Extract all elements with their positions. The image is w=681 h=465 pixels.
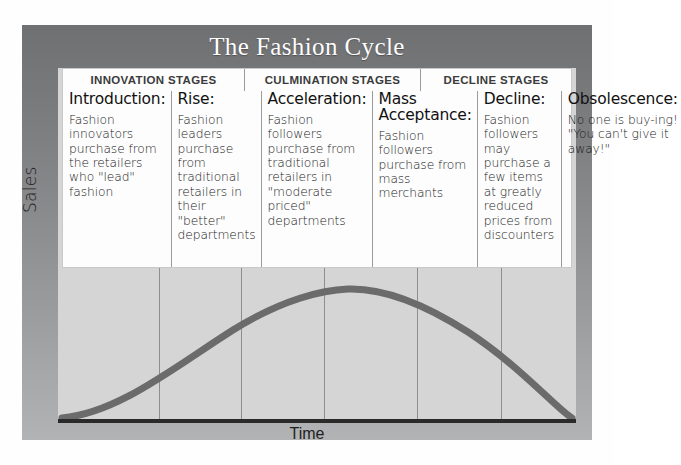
stage-group-innovation: INNOVATION STAGES (63, 69, 245, 91)
stage-group-label: INNOVATION STAGES (90, 74, 216, 86)
stage-column-decline: Decline: Fashion followers may purchase … (478, 91, 562, 267)
x-axis-line (58, 419, 576, 423)
stage-column-introduction: Introduction: Fashion innovators purchas… (63, 91, 172, 267)
stage-description: Fashion followers purchase from traditio… (268, 113, 367, 228)
stage-heading: Rise: (178, 92, 256, 108)
stage-heading: Mass Acceptance: (379, 92, 472, 124)
stage-description: No one is buy-ing! "You can't give it aw… (568, 113, 678, 156)
stage-group-decline: DECLINE STAGES (421, 69, 571, 91)
stage-description: Fashion followers purchase from mass mer… (379, 129, 472, 201)
stage-column-mass-acceptance: Mass Acceptance: Fashion followers purch… (373, 91, 478, 267)
stage-description: Fashion followers may purchase a few ite… (484, 113, 556, 242)
stage-heading: Obsolescence: (568, 92, 678, 108)
title-bar: The Fashion Cycle (22, 25, 592, 68)
stages-table: INNOVATION STAGES CULMINATION STAGES DEC… (62, 68, 572, 268)
stage-description: Fashion innovators purchase from the ret… (69, 113, 166, 199)
y-axis-label: Sales (20, 166, 40, 213)
stage-group-label: DECLINE STAGES (443, 74, 548, 86)
stage-column-obsolescence: Obsolescence: No one is buy-ing! "You ca… (562, 91, 681, 267)
stage-column-acceleration: Acceleration: Fashion followers purchase… (262, 91, 373, 267)
stage-column-rise: Rise: Fashion leaders purchase from trad… (172, 91, 262, 267)
x-axis-label: Time (22, 425, 592, 443)
stage-columns-row: Introduction: Fashion innovators purchas… (63, 91, 571, 267)
stage-group-label: CULMINATION STAGES (265, 74, 401, 86)
page-title: The Fashion Cycle (209, 33, 405, 61)
stage-heading: Acceleration: (268, 92, 367, 108)
figure-panel: The Fashion Cycle Sales Time INNOVATION … (22, 25, 592, 440)
stage-description: Fashion leaders purchase from traditiona… (178, 113, 256, 242)
stage-heading: Decline: (484, 92, 556, 108)
stage-heading: Introduction: (69, 92, 166, 108)
stage-group-header-row: INNOVATION STAGES CULMINATION STAGES DEC… (63, 69, 571, 91)
stage-group-culmination: CULMINATION STAGES (245, 69, 421, 91)
